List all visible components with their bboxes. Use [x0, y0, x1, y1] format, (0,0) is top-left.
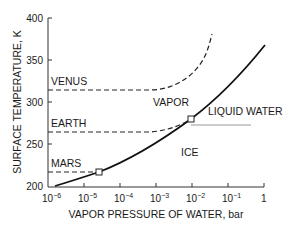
venus-label: VENUS	[51, 75, 87, 87]
x-tick-labels: 10−6 10−5 10−4 10−3 10−2 10−1 1	[42, 192, 267, 204]
x-tick-1e-6: 10−6	[42, 192, 61, 204]
mars-label: MARS	[51, 157, 81, 169]
vapor-label: VAPOR	[153, 96, 189, 108]
earth-label: EARTH	[51, 117, 86, 129]
y-tick-250: 250	[26, 139, 43, 150]
y-tick-300: 300	[26, 97, 43, 108]
ice-label: ICE	[181, 146, 199, 158]
x-tick-1e-1: 10−1	[222, 192, 241, 204]
x-tick-1e-3: 10−3	[150, 192, 169, 204]
liquid-water-label: LIQUID WATER	[208, 105, 283, 117]
x-axis-title: VAPOR PRESSURE OF WATER, bar	[69, 208, 244, 220]
y-axis-title: SURFACE TEMPERATURE, K	[11, 30, 23, 174]
y-tick-labels: 400 350 300 250 200	[26, 13, 43, 192]
x-tick-1: 1	[261, 193, 267, 204]
y-tick-200: 200	[26, 181, 43, 192]
x-tick-1e-2: 10−2	[186, 192, 205, 204]
y-tick-350: 350	[26, 55, 43, 66]
phase-diagram-chart: 400 350 300 250 200 10−6 10−5 10−4 10−3 …	[0, 0, 294, 228]
y-tick-400: 400	[26, 13, 43, 24]
mars-marker	[96, 169, 102, 175]
earth-marker	[188, 116, 194, 122]
x-tick-1e-4: 10−4	[114, 192, 133, 204]
x-tick-1e-5: 10−5	[78, 192, 97, 204]
